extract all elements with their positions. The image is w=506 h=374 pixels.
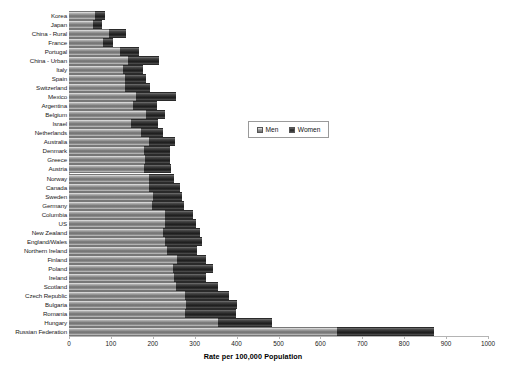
category-label: Finland: [1, 255, 67, 264]
bar-segment-women: [177, 255, 205, 264]
table-row: [69, 246, 488, 255]
bar-segment-women: [93, 20, 101, 29]
x-tick-label: 1000: [481, 340, 495, 347]
category-label: Czech Republic: [1, 291, 67, 300]
table-row: [69, 38, 488, 47]
bar-segment-women: [133, 101, 157, 110]
x-tick-label: 0: [67, 340, 71, 347]
bar-segment-men: [69, 327, 337, 336]
table-row: [69, 92, 488, 101]
x-tick-mark: [488, 336, 489, 339]
bar-segment-women: [165, 237, 203, 246]
bar-segment-women: [144, 146, 169, 155]
category-label: Columbia: [1, 210, 67, 219]
bar-segment-men: [69, 20, 93, 29]
bar-segment-women: [146, 110, 165, 119]
bar-segment-women: [103, 38, 112, 47]
legend-item-men: Men: [257, 126, 278, 133]
table-row: [69, 327, 488, 336]
category-label: Denmark: [1, 146, 67, 155]
table-row: [69, 11, 488, 20]
plot-area: [69, 11, 488, 336]
x-tick-label: 300: [189, 340, 200, 347]
x-tick-label: 600: [315, 340, 326, 347]
table-row: [69, 273, 488, 282]
x-tick-mark: [237, 336, 238, 339]
bar-segment-women: [141, 128, 163, 137]
bar-segment-women: [128, 56, 159, 65]
category-label: Australia: [1, 137, 67, 146]
x-tick-mark: [404, 336, 405, 339]
x-tick-mark: [320, 336, 321, 339]
x-tick-mark: [279, 336, 280, 339]
x-tick-label: 800: [399, 340, 410, 347]
bar-segment-women: [165, 219, 196, 228]
bar-segment-men: [69, 29, 109, 38]
bar-segment-men: [69, 146, 144, 155]
table-row: [69, 237, 488, 246]
table-row: [69, 74, 488, 83]
table-row: [69, 219, 488, 228]
category-label: Austria: [1, 164, 67, 173]
table-row: [69, 47, 488, 56]
bar-segment-women: [144, 164, 171, 173]
bar-segment-women: [149, 183, 180, 192]
x-tick-mark: [111, 336, 112, 339]
bar-segment-men: [69, 183, 149, 192]
bar-segment-men: [69, 119, 131, 128]
bar-segment-men: [69, 192, 153, 201]
category-label: Belgium: [1, 110, 67, 119]
legend-label-women: Women: [298, 126, 321, 133]
category-label: Argentina: [1, 101, 67, 110]
table-row: [69, 318, 488, 327]
table-row: [69, 309, 488, 318]
bar-segment-women: [136, 92, 176, 101]
bar-segment-men: [69, 65, 123, 74]
x-tick-mark: [153, 336, 154, 339]
table-row: [69, 174, 488, 183]
x-tick-label: 900: [441, 340, 452, 347]
x-tick-mark: [362, 336, 363, 339]
table-row: [69, 255, 488, 264]
bar-segment-women: [95, 11, 104, 20]
x-tick-mark: [195, 336, 196, 339]
bar-segment-men: [69, 201, 152, 210]
category-label: Romania: [1, 309, 67, 318]
bar-segment-men: [69, 164, 144, 173]
bar-segment-men: [69, 83, 125, 92]
category-label: Switzerland: [1, 83, 67, 92]
stacked-bar-chart: KoreaJapanChina - RuralFrancePortugalChi…: [0, 0, 506, 374]
table-row: [69, 192, 488, 201]
bar-segment-men: [69, 155, 145, 164]
bar-segment-men: [69, 174, 149, 183]
bar-segment-women: [185, 309, 235, 318]
table-row: [69, 56, 488, 65]
table-row: [69, 146, 488, 155]
bar-segment-women: [174, 273, 207, 282]
bar-segment-men: [69, 74, 125, 83]
bar-segment-women: [153, 192, 182, 201]
bar-segment-men: [69, 92, 136, 101]
bar-segment-women: [165, 210, 193, 219]
bar-segment-men: [69, 273, 174, 282]
bar-segment-men: [69, 11, 95, 20]
bar-segment-men: [69, 38, 103, 47]
table-row: [69, 155, 488, 164]
x-tick-label: 100: [106, 340, 117, 347]
bar-segment-men: [69, 255, 177, 264]
category-label: Northern Ireland: [1, 246, 67, 255]
bar-segment-women: [149, 174, 174, 183]
bar-segment-men: [69, 47, 120, 56]
table-row: [69, 65, 488, 74]
x-tick-mark: [446, 336, 447, 339]
category-label: Greece: [1, 155, 67, 164]
table-row: [69, 210, 488, 219]
table-row: [69, 29, 488, 38]
bar-segment-women: [125, 74, 146, 83]
table-row: [69, 300, 488, 309]
category-label: Norway: [1, 174, 67, 183]
bar-segment-women: [185, 291, 229, 300]
bar-segment-men: [69, 291, 185, 300]
bar-segment-men: [69, 137, 149, 146]
bar-segment-men: [69, 318, 218, 327]
